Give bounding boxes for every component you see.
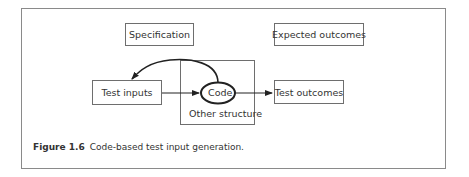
test-outcomes-box: Test outcomes: [274, 80, 344, 104]
specification-label: Specification: [129, 29, 190, 40]
test-outcomes-label: Test outcomes: [275, 87, 343, 98]
figure-number: Figure 1.6: [33, 142, 85, 152]
test-inputs-box: Test inputs: [92, 80, 162, 105]
specification-box: Specification: [125, 23, 194, 46]
other-structure-label: Other structure: [189, 108, 262, 119]
expected-outcomes-label: Expected outcomes: [272, 29, 366, 40]
figure-caption-text: Code-based test input generation.: [90, 142, 244, 152]
test-inputs-label: Test inputs: [101, 87, 152, 98]
expected-outcomes-box: Expected outcomes: [274, 23, 364, 46]
figure-caption: Figure 1.6Code-based test input generati…: [33, 142, 244, 152]
code-label: Code: [208, 87, 232, 98]
